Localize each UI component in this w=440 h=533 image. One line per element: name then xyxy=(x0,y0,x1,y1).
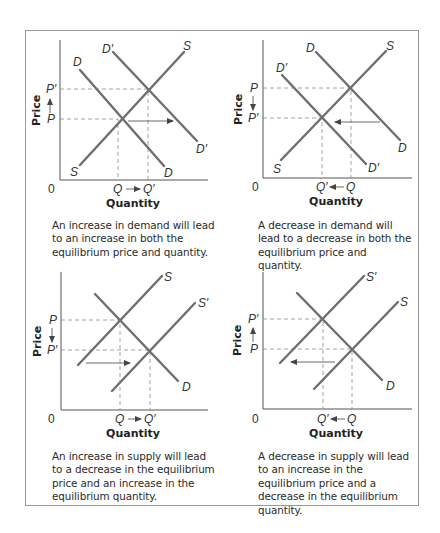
origin-label: 0 xyxy=(252,180,259,194)
x-axis-label: Quantity xyxy=(93,427,173,440)
curve-label: D xyxy=(306,41,315,55)
caption-supply-decrease: A decrease in supply will lead to an inc… xyxy=(258,450,416,517)
curve-label: S xyxy=(386,39,394,53)
price-top-label: P xyxy=(49,313,57,327)
origin-label: 0 xyxy=(48,182,55,196)
x-axis-label: Quantity xyxy=(296,195,376,208)
curve-label: D′ xyxy=(102,42,114,56)
qty-left-label: Q′ xyxy=(317,412,329,426)
price-top-label: P′ xyxy=(46,82,57,96)
curve-label: S xyxy=(164,270,172,284)
qty-left-label: Q xyxy=(113,182,122,196)
guide-old-equilibrium xyxy=(263,349,352,409)
guide-new-equilibrium xyxy=(61,350,150,410)
x-axis-label: Quantity xyxy=(93,197,173,210)
qty-right-label: Q xyxy=(347,412,356,426)
curve-label: D′ xyxy=(196,142,208,156)
origin-label: 0 xyxy=(252,412,259,426)
x-axis-label: Quantity xyxy=(296,427,376,440)
price-bottom-label: P xyxy=(250,342,258,356)
curve-label: D xyxy=(164,166,173,180)
demand-curve-new xyxy=(282,75,366,164)
y-axis-label: Price xyxy=(232,94,245,125)
panel-demand-decrease: D D D′ D′ S S P P′ Price 0 Q′ Q xyxy=(232,39,412,194)
panel-supply-decrease: S′ S D P′ P Price 0 Q′ Q xyxy=(231,270,412,426)
price-bottom-label: P′ xyxy=(248,111,259,125)
curve-label: S xyxy=(183,39,191,53)
supply-curve xyxy=(80,52,184,165)
panel-demand-increase: D D D′ D′ S S P′ P Price 0 Q Q′ xyxy=(30,39,208,196)
curve-label: S′ xyxy=(198,296,209,310)
price-top-label: P′ xyxy=(248,312,259,326)
caption-supply-increase: An increase in supply will lead to a dec… xyxy=(52,450,217,504)
y-axis-label: Price xyxy=(231,325,244,356)
curve-label: S xyxy=(273,162,281,176)
qty-right-label: Q′ xyxy=(144,412,156,426)
y-axis-label: Price xyxy=(31,326,44,357)
qty-right-label: Q′ xyxy=(143,182,155,196)
curve-label: D′ xyxy=(276,61,288,75)
qty-right-label: Q xyxy=(346,180,355,194)
guide-new-equilibrium xyxy=(263,319,323,409)
guide-old-equilibrium xyxy=(61,320,120,410)
demand-curve xyxy=(95,294,178,381)
curve-label: D xyxy=(73,55,82,69)
origin-label: 0 xyxy=(48,412,55,426)
qty-left-label: Q xyxy=(115,412,124,426)
price-bottom-label: P′ xyxy=(47,343,58,357)
guide-old-equilibrium xyxy=(60,119,118,180)
caption-demand-increase: An increase in demand will lead to an in… xyxy=(52,219,217,259)
demand-curve xyxy=(297,293,382,380)
caption-demand-decrease: A decrease in demand will lead to a decr… xyxy=(258,219,413,273)
price-bottom-label: P xyxy=(47,112,55,126)
curve-label: S xyxy=(70,165,78,179)
curve-label: D xyxy=(398,141,407,155)
demand-curve-new xyxy=(113,52,197,141)
price-top-label: P xyxy=(250,81,258,95)
curve-label: D xyxy=(386,379,395,393)
qty-left-label: Q′ xyxy=(316,180,328,194)
curve-label: S xyxy=(400,295,408,309)
panel-supply-increase: S S′ D P P′ Price 0 Q Q′ xyxy=(31,270,209,426)
curve-label: D xyxy=(182,380,191,394)
y-axis-label: Price xyxy=(30,95,43,126)
curve-label: D′ xyxy=(368,161,380,175)
supply-curve xyxy=(281,51,386,160)
demand-curve xyxy=(316,52,400,140)
